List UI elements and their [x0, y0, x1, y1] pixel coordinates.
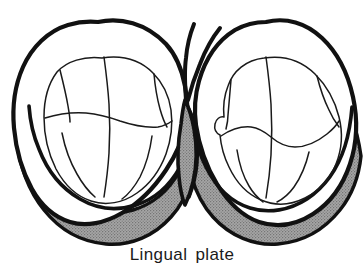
figure-caption: Lingual plate [0, 245, 364, 265]
lingual-plate-figure: Lingual plate [0, 0, 364, 275]
tooth-diagram [0, 0, 364, 275]
